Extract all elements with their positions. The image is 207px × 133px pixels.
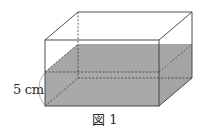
figure-caption: 図 1 — [92, 109, 117, 128]
top-left-depth-edge — [45, 12, 78, 40]
height-label: 5 cm — [13, 82, 44, 97]
prism-figure: 5 cm 図 1 — [0, 0, 207, 133]
top-right-depth-edge — [159, 12, 192, 40]
water-front-face — [45, 72, 159, 106]
